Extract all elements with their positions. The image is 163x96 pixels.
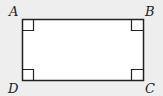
vertex-label-d: D: [7, 81, 19, 96]
vertex-label-c: C: [145, 81, 155, 96]
vertex-label-b: B: [144, 4, 155, 19]
rectangle-diagram: A B C D: [0, 0, 163, 96]
vertex-label-a: A: [8, 4, 18, 19]
rectangle-abcd: [23, 20, 144, 81]
